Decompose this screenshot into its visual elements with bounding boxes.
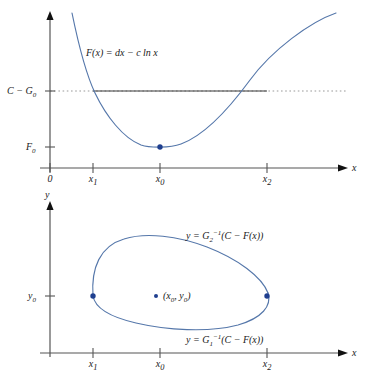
bottom-x-tick-label-x2: x2 xyxy=(263,359,272,372)
curve-label-F-of-x: F(x) = dx − c ln x xyxy=(86,48,158,58)
x-tick-label-x1: x1 xyxy=(89,174,98,187)
figure-canvas xyxy=(0,0,365,380)
x-tick-label-x0: x0 xyxy=(156,174,165,187)
center-point-dot xyxy=(154,294,158,298)
top-x-axis-label: x xyxy=(352,163,356,173)
center-point-label: (x0, y0) xyxy=(163,291,191,304)
bottom-x-axis-arrowhead xyxy=(338,349,348,356)
curve-F-of-x xyxy=(72,13,336,147)
x-tick-label-zero: 0 xyxy=(48,174,53,184)
upper-curve-label-G2-inverse: y = G2−1(C − F(x)) xyxy=(186,230,263,244)
lower-curve-label-G1-inverse: y = G1−1(C − F(x)) xyxy=(186,334,263,348)
figure-container: F(x) = dx − c ln x C − G0 F0 0 x1 x0 x2 … xyxy=(0,0,365,380)
bottom-y-axis-label: y xyxy=(45,190,49,200)
top-panel-group xyxy=(40,11,348,173)
bottom-y-tick-label-y0: y0 xyxy=(28,291,36,304)
bottom-x-tick-label-x0: x0 xyxy=(156,359,165,372)
top-y-axis-arrowhead xyxy=(46,11,53,20)
x-tick-label-x2: x2 xyxy=(263,174,272,187)
minimum-point-dot xyxy=(157,144,162,149)
curve-upper-branch-G2-inverse xyxy=(93,236,268,296)
left-intersection-dot xyxy=(90,293,95,298)
top-x-axis-arrowhead xyxy=(338,164,348,171)
right-intersection-dot xyxy=(264,293,269,298)
y-tick-label-C-minus-G0: C − G0 xyxy=(7,86,36,99)
y-tick-label-F0: F0 xyxy=(26,142,36,155)
bottom-y-axis-arrowhead xyxy=(46,201,53,210)
bottom-x-axis-label: x xyxy=(352,348,356,358)
bottom-x-tick-label-x1: x1 xyxy=(89,359,98,372)
